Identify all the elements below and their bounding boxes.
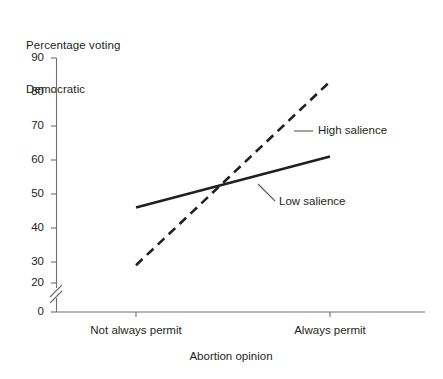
y-tick-label-70: 70 <box>18 120 44 132</box>
y-axis-ticks <box>51 58 57 312</box>
y-tick-label-80: 80 <box>18 86 44 98</box>
x-tick-label-not-always-permit: Not always permit <box>76 325 196 337</box>
y-tick-label-40: 40 <box>18 222 44 234</box>
x-tick-label-always-permit: Always permit <box>284 325 376 337</box>
y-tick-label-0: 0 <box>18 306 44 318</box>
y-tick-label-30: 30 <box>18 256 44 268</box>
y-tick-label-60: 60 <box>18 154 44 166</box>
chart-canvas <box>0 0 443 379</box>
y-tick-label-20: 20 <box>18 277 44 289</box>
x-axis-ticks <box>136 312 330 317</box>
y-tick-label-50: 50 <box>18 188 44 200</box>
chart-figure: Percentage voting Democratic <box>0 0 443 379</box>
y-tick-label-90: 90 <box>18 52 44 64</box>
annotation-low-salience: Low salience <box>279 196 345 208</box>
series-line-high-salience <box>136 82 330 266</box>
leader-line-low-salience <box>258 184 275 201</box>
annotation-high-salience: High salience <box>318 125 387 137</box>
x-axis-title: Abortion opinion <box>141 351 321 363</box>
